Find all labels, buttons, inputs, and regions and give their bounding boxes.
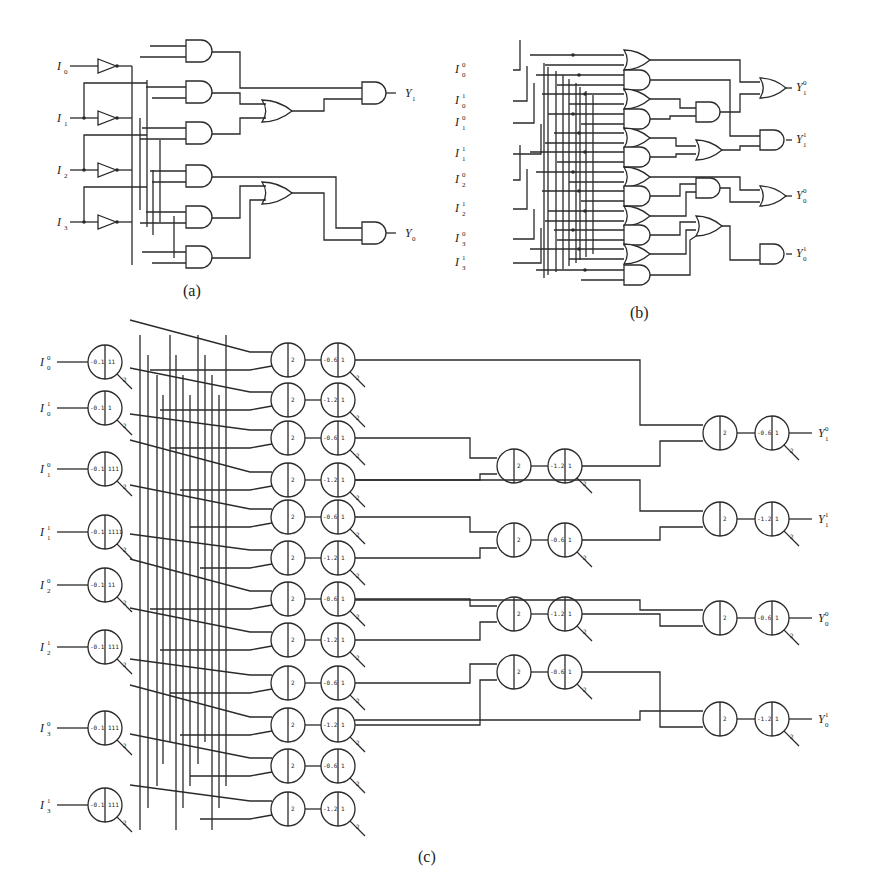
neuron-threshold: -0.6 bbox=[550, 536, 565, 543]
wire bbox=[513, 209, 534, 239]
neuron-weight: 2 bbox=[723, 515, 727, 522]
input-label-I1-sub: 1 bbox=[64, 120, 68, 128]
or-gate-icon bbox=[624, 50, 650, 70]
neuron-weight: 2 bbox=[291, 554, 295, 561]
wire bbox=[650, 230, 696, 254]
neuron-weight: 1 bbox=[341, 595, 345, 602]
input-label-7-sub: 3 bbox=[462, 264, 466, 272]
neuron-weight: 2 bbox=[291, 513, 295, 520]
neuron-weight: 2 bbox=[291, 679, 295, 686]
output-label-0-sub: 1 bbox=[803, 89, 807, 97]
input-label-5: I bbox=[454, 201, 460, 215]
input-label-2-sup: 0 bbox=[47, 461, 51, 469]
input-neuron-2: -0.11112 bbox=[88, 452, 132, 496]
neuron-weight: 1 bbox=[341, 762, 345, 769]
neuron-weight: 1 bbox=[341, 513, 345, 520]
input-label-I2: I bbox=[56, 163, 62, 177]
neuron-weight: 1 bbox=[341, 476, 345, 483]
wire bbox=[513, 228, 541, 263]
input-label-6-sub: 3 bbox=[47, 730, 51, 738]
self-weight: 2 bbox=[356, 823, 360, 830]
output-label-3-sup: 1 bbox=[803, 245, 807, 253]
neuron-weight: 1 bbox=[341, 721, 345, 728]
input-label-7-sub: 3 bbox=[47, 807, 51, 815]
neuron-weight: 2 bbox=[517, 668, 521, 675]
neuron-threshold: -1.2 bbox=[323, 636, 338, 643]
neuron-weight: 2 bbox=[291, 434, 295, 441]
output-label-0-sup: 0 bbox=[825, 425, 829, 433]
junction-dot bbox=[583, 268, 587, 272]
output-label-2-sup: 0 bbox=[825, 610, 829, 618]
or-gate-icon bbox=[624, 167, 650, 187]
or-gate-icon bbox=[624, 206, 650, 226]
and-gate-icon bbox=[186, 81, 212, 103]
input-label-1: I bbox=[454, 93, 460, 107]
sum-neuron-l2-1: 2 bbox=[497, 523, 531, 557]
neuron-weight: 2 bbox=[723, 614, 727, 621]
neuron-weight: 1 bbox=[775, 515, 779, 522]
neuron-weight: 1 bbox=[341, 679, 345, 686]
input-label-I0-sub: 0 bbox=[64, 68, 68, 76]
wire bbox=[200, 564, 272, 568]
neuron-weight: 2 bbox=[517, 536, 521, 543]
wire bbox=[130, 608, 272, 632]
input-label-7-sup: 1 bbox=[47, 797, 51, 805]
sum-neuron-l1-4: 2 bbox=[271, 500, 305, 534]
wire bbox=[212, 200, 266, 258]
threshold-neuron-l1-10: -0.612 bbox=[321, 749, 365, 793]
wire bbox=[582, 672, 703, 727]
neuron-weight: 2 bbox=[291, 595, 295, 602]
wire bbox=[212, 177, 362, 228]
input-label-4-sup: 0 bbox=[47, 577, 51, 585]
self-weight: 2 bbox=[123, 422, 127, 429]
self-weight: 2 bbox=[356, 374, 360, 381]
input-label-4-sub: 2 bbox=[462, 181, 466, 189]
and-gate-icon bbox=[186, 122, 212, 144]
neuron-threshold: -0.1 bbox=[90, 358, 105, 365]
output-label-1-sub: 1 bbox=[825, 521, 829, 529]
neuron-weight: 1 bbox=[341, 434, 345, 441]
or-gate-icon bbox=[624, 89, 650, 109]
wire bbox=[190, 772, 272, 776]
neuron-threshold: -1.2 bbox=[323, 721, 338, 728]
output-label-Y0-sub: 0 bbox=[412, 235, 416, 243]
junction-dot bbox=[577, 131, 581, 135]
sum-neuron-l1-7: 2 bbox=[271, 623, 305, 657]
neuron-weight: 2 bbox=[291, 636, 295, 643]
self-weight: 2 bbox=[123, 483, 127, 490]
input-neuron-6: -0.11112 bbox=[88, 711, 132, 755]
input-label-3-sub: 1 bbox=[47, 534, 51, 542]
input-label-0-sup: 0 bbox=[462, 61, 466, 69]
junction-dot bbox=[82, 116, 86, 120]
wire bbox=[355, 517, 497, 532]
input-label-1-sub: 0 bbox=[47, 410, 51, 418]
wire bbox=[130, 485, 272, 509]
wire bbox=[150, 605, 272, 609]
junction-dot bbox=[115, 168, 119, 172]
and-gate-icon bbox=[624, 225, 650, 245]
junction-dot bbox=[583, 92, 587, 96]
neuron-weight: 2 bbox=[291, 396, 295, 403]
self-weight: 2 bbox=[123, 376, 127, 383]
wire bbox=[650, 116, 696, 119]
sum-neuron-l1-9: 2 bbox=[271, 708, 305, 742]
and-gate-icon bbox=[624, 265, 650, 285]
neuron-threshold: -0.1 bbox=[90, 801, 105, 808]
neuron-weight: 1 bbox=[108, 404, 112, 411]
input-label-5-sub: 2 bbox=[47, 649, 51, 657]
neuron-weight: 1 bbox=[775, 715, 779, 722]
sum-neuron-l1-3: 2 bbox=[271, 463, 305, 497]
self-weight: 2 bbox=[123, 661, 127, 668]
input-label-7: I bbox=[454, 255, 460, 269]
input-label-4: I bbox=[39, 578, 45, 592]
and-gate-icon bbox=[362, 222, 386, 244]
neuron-weight: 1111 bbox=[108, 528, 123, 535]
input-label-3: I bbox=[39, 525, 45, 539]
wire bbox=[722, 226, 760, 260]
self-weight: 2 bbox=[583, 628, 587, 635]
wire bbox=[355, 474, 497, 480]
wire bbox=[130, 659, 272, 675]
or-gate-icon bbox=[262, 182, 292, 204]
sum-neuron-l1-8: 2 bbox=[271, 666, 305, 700]
input-label-0-sub: 0 bbox=[462, 71, 466, 79]
